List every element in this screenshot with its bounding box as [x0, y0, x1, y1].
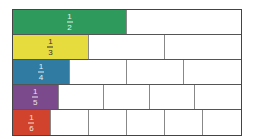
empty-unit-cell [150, 85, 196, 109]
shaded-unit-fraction: 12 [13, 10, 127, 34]
empty-unit-cell [59, 85, 105, 109]
fraction-label: 15 [32, 88, 38, 107]
denominator: 3 [48, 49, 52, 57]
shaded-unit-fraction: 13 [13, 35, 89, 59]
numerator: 1 [39, 63, 43, 71]
shaded-unit-fraction: 15 [13, 85, 59, 109]
empty-unit-cell [184, 60, 241, 84]
empty-unit-cell [127, 60, 184, 84]
numerator: 1 [33, 88, 37, 96]
empty-unit-cell [51, 110, 89, 135]
denominator: 6 [29, 124, 33, 132]
fraction-label: 14 [38, 63, 44, 82]
fraction-label: 16 [28, 113, 34, 132]
fraction-row-1-2: 12 [13, 10, 241, 35]
fraction-label: 12 [67, 13, 73, 32]
empty-unit-cell [127, 10, 241, 34]
denominator: 5 [33, 99, 37, 107]
numerator: 1 [48, 38, 52, 46]
empty-unit-cell [104, 85, 150, 109]
fraction-row-1-3: 13 [13, 35, 241, 60]
empty-unit-cell [89, 35, 165, 59]
fraction-row-1-4: 14 [13, 60, 241, 85]
empty-unit-cell [203, 110, 241, 135]
fraction-row-1-5: 15 [13, 85, 241, 110]
numerator: 1 [67, 13, 71, 21]
shaded-unit-fraction: 16 [13, 110, 51, 135]
fraction-label: 13 [47, 38, 53, 57]
shaded-unit-fraction: 14 [13, 60, 70, 84]
denominator: 2 [67, 24, 71, 32]
empty-unit-cell [127, 110, 165, 135]
empty-unit-cell [165, 35, 241, 59]
numerator: 1 [29, 113, 33, 121]
empty-unit-cell [89, 110, 127, 135]
fraction-strips-board: 1213141516 [12, 9, 242, 136]
empty-unit-cell [70, 60, 127, 84]
fraction-row-1-6: 16 [13, 110, 241, 135]
empty-unit-cell [195, 85, 241, 109]
denominator: 4 [39, 74, 43, 82]
empty-unit-cell [165, 110, 203, 135]
